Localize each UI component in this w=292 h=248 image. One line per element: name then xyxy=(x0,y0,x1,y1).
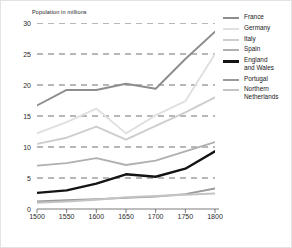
x-tick-label: 1750 xyxy=(170,213,200,220)
x-tick-label: 1550 xyxy=(52,213,82,220)
x-tick-label: 1700 xyxy=(141,213,171,220)
y-tick-label: 20 xyxy=(13,82,31,89)
y-tick-label: 15 xyxy=(13,113,31,120)
x-tick-label: 1800 xyxy=(200,213,230,220)
y-tick-label: 25 xyxy=(13,51,31,58)
y-tick-label: 5 xyxy=(13,175,31,182)
y-tick-label: 0 xyxy=(13,206,31,213)
chart-figure: Population in millions FranceGermanyItal… xyxy=(0,0,292,248)
axis-lines xyxy=(1,1,292,248)
x-tick-label: 1500 xyxy=(22,213,52,220)
x-tick-label: 1600 xyxy=(81,213,111,220)
y-tick-label: 10 xyxy=(13,144,31,151)
y-tick-label: 30 xyxy=(13,20,31,27)
x-tick-label: 1650 xyxy=(111,213,141,220)
